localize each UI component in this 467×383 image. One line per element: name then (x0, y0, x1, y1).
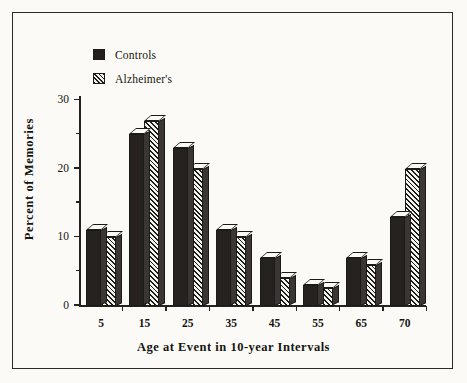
bar-side-face (318, 282, 324, 305)
x-axis-tick (296, 306, 297, 311)
bar-controls-55 (303, 285, 318, 306)
chart-legend: Controls Alzheimer's (93, 46, 223, 94)
bar-side-face (376, 262, 382, 306)
bar-controls-35 (216, 230, 231, 305)
bar-side-face (101, 227, 107, 305)
x-axis-tick (382, 306, 383, 311)
x-axis-tick (339, 306, 340, 311)
x-axis-tick-label: 70 (399, 317, 411, 329)
y-axis-tick: 20 (74, 167, 80, 168)
x-axis-tick-label: 25 (182, 317, 194, 329)
legend-item-controls: Controls (93, 46, 223, 63)
y-axis-minor-tick (76, 133, 80, 134)
legend-item-alzheimers: Alzheimer's (93, 70, 223, 87)
y-axis-minor-tick (76, 270, 80, 271)
x-axis-tick (252, 306, 253, 311)
bar-side-face (290, 275, 296, 305)
bar-front-face (216, 230, 231, 305)
bar-front-face (303, 285, 318, 306)
y-axis-tick: 10 (74, 236, 80, 237)
x-axis-tick (122, 306, 123, 311)
bar-front-face (390, 217, 405, 306)
x-axis-tick-label: 45 (269, 317, 281, 329)
bar-side-face (275, 255, 281, 306)
plot-area: 0102030 515253545556570 (79, 100, 426, 307)
bar-controls-15 (129, 134, 144, 305)
y-axis-tick: 0 (74, 304, 80, 305)
bar-side-face (361, 255, 367, 306)
bar-front-face (86, 230, 101, 305)
bar-front-face (173, 148, 188, 306)
x-axis-tick (209, 306, 210, 311)
x-axis-tick-label: 5 (98, 317, 104, 329)
solid-square-icon (93, 49, 105, 60)
y-axis-tick-label: 20 (58, 162, 70, 174)
x-axis-tick-label: 55 (312, 317, 324, 329)
bar-side-face (405, 214, 411, 306)
bar-front-face (346, 258, 361, 306)
bar-side-face (144, 131, 150, 305)
bar-front-face (129, 134, 144, 305)
y-axis-tick-label: 10 (58, 230, 70, 242)
bar-side-face (116, 234, 122, 305)
bar-controls-25 (173, 148, 188, 306)
bar-controls-70 (390, 217, 405, 306)
hatched-square-icon (93, 73, 105, 84)
bar-side-face (203, 166, 209, 306)
legend-item-label: Controls (115, 49, 156, 61)
bar-side-face (333, 286, 339, 306)
y-axis-tick-label: 0 (63, 299, 69, 311)
y-axis-title: Percent of Memories (22, 118, 40, 240)
legend-item-label: Alzheimer's (115, 73, 172, 85)
bar-controls-5 (86, 230, 101, 305)
y-axis-minor-tick (76, 201, 80, 202)
bar-controls-45 (260, 258, 275, 306)
x-axis-tick-label: 35 (225, 317, 237, 329)
chart-figure: Controls Alzheimer's 0102030 51525354555… (0, 0, 467, 383)
bar-side-face (246, 234, 252, 305)
bar-side-face (188, 145, 194, 306)
bar-controls-65 (346, 258, 361, 306)
x-axis-tick-label: 15 (139, 317, 151, 329)
bar-front-face (260, 258, 275, 306)
bar-side-face (420, 166, 426, 306)
x-axis-tick-label: 65 (356, 317, 368, 329)
x-axis-tick (165, 306, 166, 311)
bar-side-face (231, 227, 237, 305)
x-axis-tick (426, 306, 427, 311)
y-axis-tick-label: 30 (58, 93, 70, 105)
x-axis-title: Age at Event in 10-year Intervals (0, 340, 467, 355)
y-axis-tick: 30 (74, 99, 80, 100)
bar-side-face (159, 118, 165, 306)
